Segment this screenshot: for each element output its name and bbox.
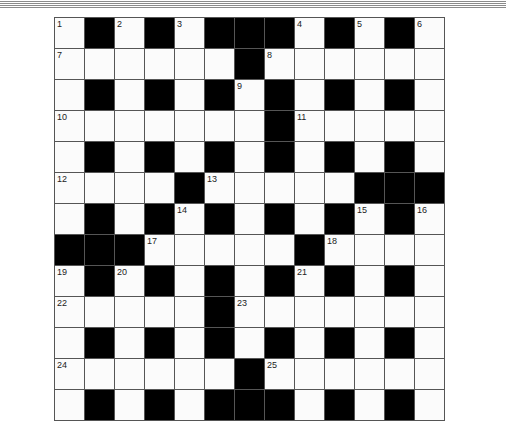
white-cell[interactable]: [85, 359, 114, 389]
white-cell[interactable]: 21: [295, 266, 324, 296]
white-cell[interactable]: [175, 266, 204, 296]
white-cell[interactable]: [55, 142, 84, 172]
white-cell[interactable]: [295, 297, 324, 327]
white-cell[interactable]: [415, 142, 444, 172]
white-cell[interactable]: [295, 173, 324, 203]
white-cell[interactable]: [385, 297, 414, 327]
white-cell[interactable]: [85, 297, 114, 327]
white-cell[interactable]: [355, 328, 384, 358]
white-cell[interactable]: [235, 328, 264, 358]
white-cell[interactable]: [355, 235, 384, 265]
white-cell[interactable]: 23: [235, 297, 264, 327]
white-cell[interactable]: [85, 173, 114, 203]
white-cell[interactable]: [355, 266, 384, 296]
white-cell[interactable]: [415, 390, 444, 420]
white-cell[interactable]: [115, 328, 144, 358]
white-cell[interactable]: 11: [295, 111, 324, 141]
white-cell[interactable]: 14: [175, 204, 204, 234]
white-cell[interactable]: 5: [355, 18, 384, 48]
white-cell[interactable]: [175, 80, 204, 110]
white-cell[interactable]: [355, 390, 384, 420]
white-cell[interactable]: [115, 49, 144, 79]
white-cell[interactable]: [385, 235, 414, 265]
white-cell[interactable]: [325, 173, 354, 203]
white-cell[interactable]: 13: [205, 173, 234, 203]
white-cell[interactable]: [295, 328, 324, 358]
white-cell[interactable]: [115, 80, 144, 110]
white-cell[interactable]: [415, 235, 444, 265]
white-cell[interactable]: [175, 328, 204, 358]
white-cell[interactable]: [295, 390, 324, 420]
white-cell[interactable]: 10: [55, 111, 84, 141]
white-cell[interactable]: [115, 390, 144, 420]
white-cell[interactable]: [355, 297, 384, 327]
white-cell[interactable]: [205, 359, 234, 389]
white-cell[interactable]: [235, 266, 264, 296]
white-cell[interactable]: 1: [55, 18, 84, 48]
white-cell[interactable]: [295, 142, 324, 172]
white-cell[interactable]: [355, 142, 384, 172]
white-cell[interactable]: [235, 235, 264, 265]
white-cell[interactable]: 15: [355, 204, 384, 234]
white-cell[interactable]: [415, 297, 444, 327]
white-cell[interactable]: 22: [55, 297, 84, 327]
white-cell[interactable]: [145, 173, 174, 203]
white-cell[interactable]: 16: [415, 204, 444, 234]
white-cell[interactable]: [85, 111, 114, 141]
white-cell[interactable]: [55, 328, 84, 358]
white-cell[interactable]: 12: [55, 173, 84, 203]
white-cell[interactable]: [415, 49, 444, 79]
white-cell[interactable]: [175, 235, 204, 265]
white-cell[interactable]: [355, 111, 384, 141]
white-cell[interactable]: [355, 80, 384, 110]
white-cell[interactable]: [115, 297, 144, 327]
white-cell[interactable]: [415, 266, 444, 296]
white-cell[interactable]: 3: [175, 18, 204, 48]
white-cell[interactable]: [385, 49, 414, 79]
white-cell[interactable]: [115, 359, 144, 389]
white-cell[interactable]: [325, 297, 354, 327]
white-cell[interactable]: [415, 80, 444, 110]
white-cell[interactable]: [175, 142, 204, 172]
white-cell[interactable]: [205, 235, 234, 265]
white-cell[interactable]: [295, 49, 324, 79]
white-cell[interactable]: [235, 142, 264, 172]
white-cell[interactable]: [115, 204, 144, 234]
white-cell[interactable]: [115, 173, 144, 203]
white-cell[interactable]: [205, 111, 234, 141]
white-cell[interactable]: [175, 297, 204, 327]
white-cell[interactable]: 6: [415, 18, 444, 48]
white-cell[interactable]: [325, 49, 354, 79]
white-cell[interactable]: [145, 297, 174, 327]
white-cell[interactable]: [145, 49, 174, 79]
white-cell[interactable]: 17: [145, 235, 174, 265]
white-cell[interactable]: [145, 111, 174, 141]
white-cell[interactable]: 18: [325, 235, 354, 265]
white-cell[interactable]: [265, 173, 294, 203]
white-cell[interactable]: [355, 49, 384, 79]
white-cell[interactable]: [385, 111, 414, 141]
white-cell[interactable]: [265, 297, 294, 327]
white-cell[interactable]: 2: [115, 18, 144, 48]
white-cell[interactable]: [325, 359, 354, 389]
white-cell[interactable]: [55, 204, 84, 234]
white-cell[interactable]: [205, 49, 234, 79]
white-cell[interactable]: [415, 111, 444, 141]
white-cell[interactable]: [385, 359, 414, 389]
white-cell[interactable]: [55, 390, 84, 420]
white-cell[interactable]: 20: [115, 266, 144, 296]
white-cell[interactable]: [235, 204, 264, 234]
white-cell[interactable]: 8: [265, 49, 294, 79]
white-cell[interactable]: [175, 111, 204, 141]
white-cell[interactable]: [295, 204, 324, 234]
white-cell[interactable]: [235, 111, 264, 141]
white-cell[interactable]: 9: [235, 80, 264, 110]
white-cell[interactable]: [295, 80, 324, 110]
white-cell[interactable]: [85, 49, 114, 79]
white-cell[interactable]: [265, 235, 294, 265]
white-cell[interactable]: [355, 359, 384, 389]
white-cell[interactable]: [175, 359, 204, 389]
white-cell[interactable]: [175, 390, 204, 420]
white-cell[interactable]: 24: [55, 359, 84, 389]
white-cell[interactable]: [235, 173, 264, 203]
